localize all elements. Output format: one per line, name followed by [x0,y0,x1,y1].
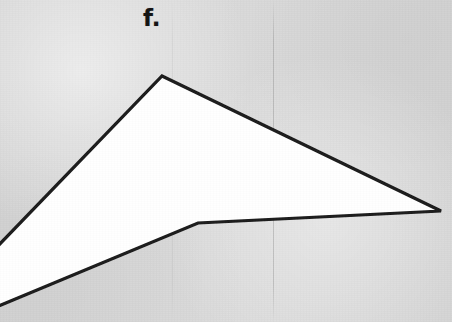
figure-canvas: f. [0,0,452,322]
polygon-figure-svg [0,0,452,322]
concave-quadrilateral-shape [0,76,441,322]
figure-label-f: f. [143,7,161,30]
